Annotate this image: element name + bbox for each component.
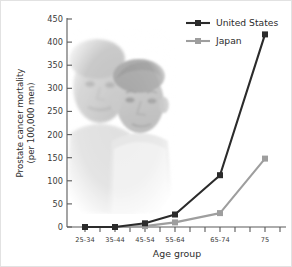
series-us-point: [217, 172, 223, 178]
y-axis-title: Prostate cancer mortality (per 100,000 m…: [15, 69, 36, 178]
series-japan-point: [217, 210, 223, 216]
y-tick-label: 50: [53, 199, 63, 209]
y-axis-title-line1: Prostate cancer mortality: [15, 69, 25, 178]
x-tick-label: 25-34: [75, 236, 95, 244]
series-us-point: [262, 31, 268, 37]
y-tick-label: 400: [47, 37, 63, 47]
x-tick-label: 55-64: [165, 236, 185, 244]
y-tick-label: 100: [47, 176, 63, 186]
series-japan-point: [262, 156, 268, 162]
legend-swatch-japan: [195, 38, 201, 44]
y-tick-label: 250: [47, 106, 63, 116]
x-tick-label: 75: [261, 236, 270, 244]
x-tick-label: 35-44: [105, 236, 125, 244]
x-axis-title: Age group: [153, 248, 201, 259]
y-tick-label: 450: [47, 14, 63, 24]
series-us-point: [82, 224, 88, 230]
series-us-point: [172, 212, 178, 218]
x-axis-tick-labels: 25-34 35-44 45-54 55-64 65-74 75: [75, 236, 269, 244]
y-axis-title-line2: (per 100,000 men): [26, 82, 36, 163]
y-axis-ticks: [67, 19, 72, 227]
y-tick-label: 300: [47, 83, 63, 93]
y-tick-label: 350: [47, 60, 63, 70]
series-united-states: [82, 31, 268, 230]
legend-label-japan: Japan: [215, 35, 242, 46]
series-united-states-line: [85, 34, 265, 227]
legend-item-united-states[interactable]: United States: [186, 17, 278, 28]
x-tick-label: 65-74: [210, 236, 230, 244]
y-tick-label: 0: [58, 222, 63, 232]
chart-plot-area: 0 50 100 150 200 250 300 350 400 450: [1, 1, 292, 267]
series-japan: [82, 156, 268, 230]
chart-frame: 0 50 100 150 200 250 300 350 400 450: [0, 0, 292, 267]
series-us-point: [112, 224, 118, 230]
y-tick-label: 200: [47, 130, 63, 140]
series-japan-point: [172, 219, 178, 225]
legend-label-united-states: United States: [216, 17, 278, 28]
series-us-point: [142, 220, 148, 226]
legend-item-japan[interactable]: Japan: [186, 35, 242, 46]
y-tick-label: 150: [47, 153, 63, 163]
legend-swatch-united-states: [195, 20, 201, 26]
y-axis-tick-labels: 0 50 100 150 200 250 300 350 400 450: [47, 14, 63, 232]
x-tick-label: 45-54: [135, 236, 155, 244]
